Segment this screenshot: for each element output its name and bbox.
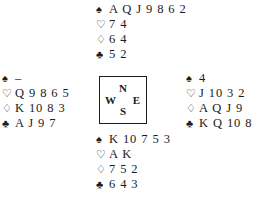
heart-icon: ♡ [186,86,199,101]
diamond-icon: ♢ [96,32,109,47]
west-club-row: ♣ A J 9 7 [2,116,70,131]
heart-icon: ♡ [2,86,15,101]
east-club-cards: K Q 10 8 [199,116,252,131]
west-diamond-row: ♢ K 10 8 3 [2,101,70,116]
south-diamond-cards: 7 5 2 [109,162,139,177]
south-hand: ♠ K 10 7 5 3 ♡ A K ♢ 7 5 2 ♣ 6 4 3 [96,132,171,192]
south-heart-cards: A K [109,147,132,162]
heart-icon: ♡ [96,17,109,32]
east-heart-row: ♡ J 10 3 2 [186,86,252,101]
diamond-icon: ♢ [96,162,109,177]
west-heart-row: ♡ Q 9 8 6 5 [2,86,70,101]
club-icon: ♣ [186,116,199,131]
west-diamond-cards: K 10 8 3 [15,101,66,116]
west-spade-cards: – [15,71,21,86]
west-heart-cards: Q 9 8 6 5 [15,86,70,101]
club-icon: ♣ [96,177,109,192]
spade-icon: ♠ [96,2,109,17]
west-hand: ♠ – ♡ Q 9 8 6 5 ♢ K 10 8 3 ♣ A J 9 7 [2,71,70,131]
club-icon: ♣ [2,116,15,131]
north-diamond-row: ♢ 6 4 [96,32,187,47]
south-heart-row: ♡ A K [96,147,171,162]
west-club-cards: A J 9 7 [15,116,56,131]
south-spade-cards: K 10 7 5 3 [109,132,171,147]
north-hand: ♠ A Q J 9 8 6 2 ♡ 7 4 ♢ 6 4 ♣ 5 2 [96,2,187,62]
heart-icon: ♡ [96,147,109,162]
diamond-icon: ♢ [186,101,199,116]
diamond-icon: ♢ [2,101,15,116]
south-spade-row: ♠ K 10 7 5 3 [96,132,171,147]
north-heart-row: ♡ 7 4 [96,17,187,32]
east-diamond-cards: A Q J 9 [199,101,243,116]
east-heart-cards: J 10 3 2 [199,86,245,101]
north-heart-cards: 7 4 [109,17,127,32]
south-diamond-row: ♢ 7 5 2 [96,162,171,177]
east-club-row: ♣ K Q 10 8 [186,116,252,131]
north-spade-row: ♠ A Q J 9 8 6 2 [96,2,187,17]
north-club-row: ♣ 5 2 [96,47,187,62]
east-spade-row: ♠ 4 [186,71,252,86]
east-hand: ♠ 4 ♡ J 10 3 2 ♢ A Q J 9 ♣ K Q 10 8 [186,71,252,131]
club-icon: ♣ [96,47,109,62]
compass-south-label: S [100,106,146,117]
north-diamond-cards: 6 4 [109,32,127,47]
south-club-cards: 6 4 3 [109,177,139,192]
spade-icon: ♠ [186,71,199,86]
north-club-cards: 5 2 [109,47,127,62]
south-club-row: ♣ 6 4 3 [96,177,171,192]
west-spade-row: ♠ – [2,71,70,86]
east-diamond-row: ♢ A Q J 9 [186,101,252,116]
east-spade-cards: 4 [199,71,206,86]
bridge-deal-diagram: ♠ A Q J 9 8 6 2 ♡ 7 4 ♢ 6 4 ♣ 5 2 ♠ – ♡ … [0,0,267,200]
compass-box: N W E S [99,76,147,124]
north-spade-cards: A Q J 9 8 6 2 [109,2,187,17]
spade-icon: ♠ [96,132,109,147]
spade-icon: ♠ [2,71,15,86]
